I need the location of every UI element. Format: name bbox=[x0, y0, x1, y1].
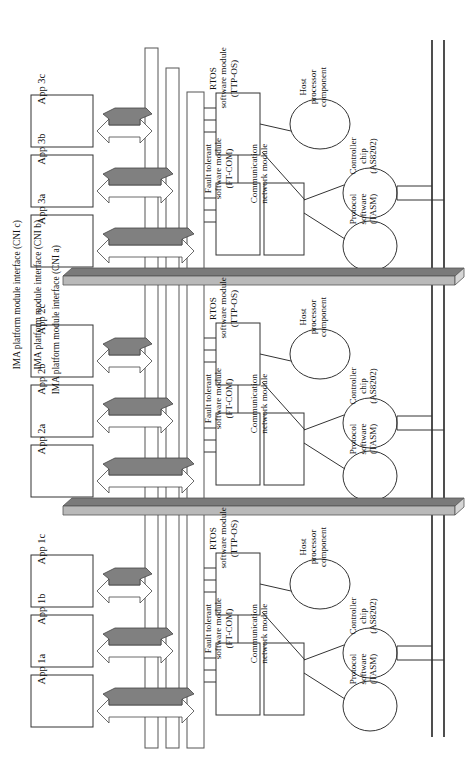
ellipse-controller-2[interactable] bbox=[343, 398, 397, 448]
bus-lines bbox=[432, 40, 444, 737]
module-box-ftcom-1[interactable] bbox=[216, 643, 260, 715]
slab-bottom bbox=[63, 498, 464, 515]
module-box-rtos-1[interactable] bbox=[216, 553, 260, 615]
app-box-1b[interactable] bbox=[31, 615, 93, 667]
group-3 bbox=[31, 93, 444, 271]
leader-controller-2 bbox=[304, 415, 344, 430]
diagram-svg: .bx{fill:#ffffff;stroke:#333;stroke-widt… bbox=[0, 0, 472, 777]
ellipse-host-1[interactable] bbox=[290, 559, 350, 609]
arrow-1c bbox=[97, 568, 152, 603]
leader-protocol-1 bbox=[304, 673, 345, 699]
leader-controller-3 bbox=[304, 185, 344, 200]
ellipse-protocol-1[interactable] bbox=[343, 681, 397, 731]
leader-protocol-2 bbox=[304, 443, 345, 469]
app-box-3c[interactable] bbox=[31, 95, 93, 147]
module-box-rtos-2[interactable] bbox=[216, 323, 260, 385]
leader-host-2 bbox=[260, 354, 291, 361]
module-box-commnet-2[interactable] bbox=[264, 413, 304, 485]
leader-protocol-3 bbox=[304, 213, 345, 239]
group-2 bbox=[31, 323, 444, 501]
app-box-1c[interactable] bbox=[31, 555, 93, 607]
app-box-2a[interactable] bbox=[31, 445, 93, 497]
app-box-3b[interactable] bbox=[31, 155, 93, 207]
cni-bar-a[interactable] bbox=[187, 92, 204, 748]
ellipse-controller-1[interactable] bbox=[343, 628, 397, 678]
ellipse-controller-3[interactable] bbox=[343, 168, 397, 218]
module-box-commnet-1[interactable] bbox=[264, 643, 304, 715]
module-box-commnet-3[interactable] bbox=[264, 183, 304, 255]
leader-host-1 bbox=[260, 584, 291, 591]
app-box-2c[interactable] bbox=[31, 325, 93, 377]
arrow-1b bbox=[97, 628, 173, 663]
ellipse-protocol-2[interactable] bbox=[343, 451, 397, 501]
arrow-2c bbox=[97, 338, 152, 373]
cni-ticks-3 bbox=[204, 108, 216, 222]
app-box-3a[interactable] bbox=[31, 215, 93, 267]
cni-ticks-1 bbox=[204, 568, 216, 682]
app-box-1a[interactable] bbox=[31, 675, 93, 727]
ellipse-host-2[interactable] bbox=[290, 329, 350, 379]
arrow-3b bbox=[97, 168, 173, 203]
diagram-canvas: .bx{fill:#ffffff;stroke:#333;stroke-widt… bbox=[0, 0, 472, 777]
leader-host-3 bbox=[260, 124, 291, 131]
module-box-rtos-3[interactable] bbox=[216, 93, 260, 155]
ellipse-protocol-3[interactable] bbox=[343, 221, 397, 271]
module-box-ftcom-2[interactable] bbox=[216, 413, 260, 485]
group-1 bbox=[31, 553, 444, 731]
app-box-2b[interactable] bbox=[31, 385, 93, 437]
ellipse-host-3[interactable] bbox=[290, 99, 350, 149]
arrow-2b bbox=[97, 398, 173, 433]
module-box-ftcom-3[interactable] bbox=[216, 183, 260, 255]
leader-controller-1 bbox=[304, 645, 344, 660]
arrow-3c bbox=[97, 108, 152, 143]
slab-top bbox=[63, 268, 464, 285]
cni-ticks-2 bbox=[204, 338, 216, 452]
